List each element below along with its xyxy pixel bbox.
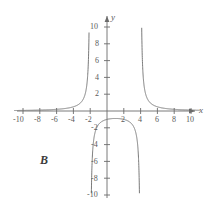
x-tick-label-4: 4 <box>138 116 142 124</box>
y-tick-label-4: 4 <box>95 74 99 82</box>
plot-canvas <box>0 0 210 210</box>
x-tick-label-10: 10 <box>186 116 194 124</box>
y-axis-label: y <box>111 13 115 22</box>
curve-branch-right <box>142 28 200 110</box>
x-axis-arrowhead <box>189 109 195 114</box>
x-tick-label-6: 6 <box>155 116 159 124</box>
curve-branch-middle <box>91 118 139 192</box>
axes-group <box>17 16 195 198</box>
y-tick-label-8: 8 <box>95 40 99 48</box>
y-tick-label-6: 6 <box>95 57 99 65</box>
x-tick-label--10: -10 <box>13 116 24 124</box>
x-tick-label--4: -4 <box>68 116 75 124</box>
x-tick-label--8: -8 <box>34 116 41 124</box>
panel-label: B <box>40 154 48 166</box>
y-axis-arrowhead <box>105 16 110 22</box>
x-tick-label--6: -6 <box>51 116 58 124</box>
y-tick-label--2: -2 <box>91 124 98 132</box>
y-tick-label--10: -10 <box>87 191 98 199</box>
x-tick-label-2: 2 <box>121 116 125 124</box>
graph-figure: -10 -8 -6 -4 -2 2 4 6 8 10 10 8 6 4 2 -2… <box>0 0 210 210</box>
y-tick-label-2: 2 <box>95 90 99 98</box>
x-tick-label-8: 8 <box>172 116 176 124</box>
curve-branch-left <box>15 33 89 111</box>
y-tick-label-10: 10 <box>90 23 98 31</box>
y-tick-label--4: -4 <box>91 141 98 149</box>
y-tick-label--6: -6 <box>91 158 98 166</box>
x-axis-label: x <box>199 106 203 115</box>
y-tick-label--8: -8 <box>91 175 98 183</box>
